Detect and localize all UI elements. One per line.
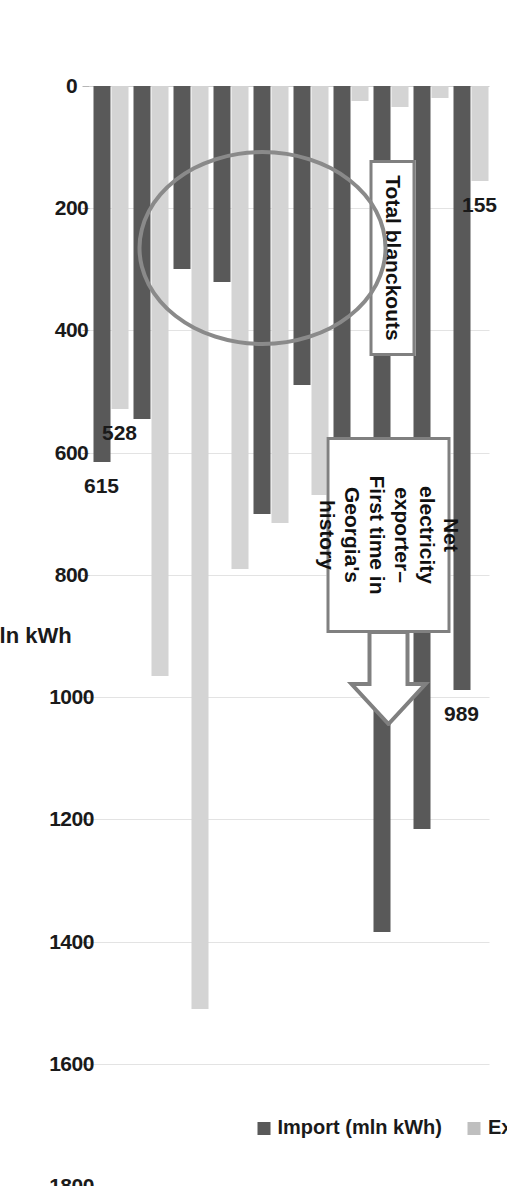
net-exporter-line-5: Georgia's — [338, 487, 363, 583]
value-axis-title: Mln kWh — [13, 86, 39, 1186]
axis-tick-label: 600 — [54, 441, 88, 465]
legend-label: Import (mln kWh) — [277, 1116, 441, 1138]
legend-item[interactable]: Export (mln kWh) — [467, 1116, 507, 1139]
net-exporter-arrow-icon — [345, 630, 431, 726]
axis-tick-label: 800 — [54, 563, 88, 587]
legend-swatch-icon — [257, 1122, 270, 1135]
data-label-2003-import: 989 — [443, 702, 478, 726]
legend-item[interactable]: Import (mln kWh) — [257, 1116, 441, 1139]
net-exporter-line-1: Net — [438, 518, 463, 552]
value-axis-title-text: Mln kWh — [0, 623, 71, 649]
axis-tick-label: 1800 — [49, 1174, 94, 1186]
axis-tick-label: 1400 — [49, 930, 94, 954]
net-exporter-callout: Net electricity exporter– First time in … — [326, 437, 450, 633]
axis-tick-label: 1200 — [49, 807, 94, 831]
net-exporter-line-4: First time in — [363, 475, 388, 594]
chart-canvas: 020040060080010001200140016001800 Mln kW… — [0, 0, 507, 1186]
legend-label: Export (mln kWh) — [487, 1116, 507, 1138]
axis-tick-label: 400 — [54, 318, 88, 342]
axis-tick-label: 0 — [65, 74, 76, 98]
data-label-2012-import: 615 — [83, 473, 118, 497]
net-exporter-line-2: electricity — [413, 486, 438, 584]
axis-tick-label: 200 — [54, 196, 88, 220]
axis-tick-label: 1600 — [49, 1052, 94, 1076]
legend-swatch-icon — [467, 1122, 480, 1135]
net-exporter-line-6: history — [314, 500, 339, 570]
data-label-2003-export: 155 — [461, 192, 496, 216]
net-exporter-line-3: exporter– — [388, 487, 413, 583]
axis-tick-label: 1000 — [49, 685, 94, 709]
data-label-2012-export: 528 — [101, 420, 136, 444]
blackouts-highlight-ellipse — [137, 150, 387, 346]
